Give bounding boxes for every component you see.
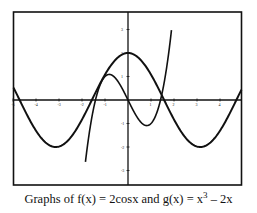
x-tick-label: 1 [150, 102, 152, 107]
x-tick-label: 3 [196, 102, 198, 107]
caption-suffix: – 2x [208, 192, 233, 206]
y-tick-label: -1 [121, 121, 124, 126]
x-tick-label: 4 [219, 102, 221, 107]
y-tick-label: -2 [121, 145, 124, 150]
y-tick-label: 1 [121, 74, 123, 79]
chart-plot: -5-4-3-2-11234-3-2-1123 [0, 0, 257, 213]
x-tick-label: -4 [35, 102, 38, 107]
x-tick-label: -1 [104, 102, 107, 107]
x-tick-label: -5 [12, 102, 15, 107]
x-tick-label: -3 [58, 102, 61, 107]
caption-prefix: Graphs of f(x) = 2cosx and g(x) = x [24, 192, 203, 206]
x-tick-label: 2 [173, 102, 175, 107]
x-tick-label: -2 [81, 102, 84, 107]
chart-caption: Graphs of f(x) = 2cosx and g(x) = x3 – 2… [0, 190, 257, 207]
y-tick-label: -3 [121, 168, 124, 173]
y-tick-label: 3 [121, 27, 123, 32]
